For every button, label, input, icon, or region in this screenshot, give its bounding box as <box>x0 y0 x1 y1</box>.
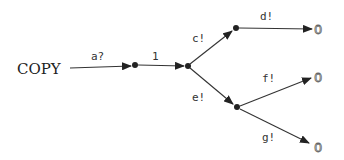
edge-label-e: e! <box>192 91 205 104</box>
state-node-4 <box>234 104 240 110</box>
process-tree-diagram: COPY a? 1 c! d! 0 e! f! 0 g! 0 <box>0 0 344 160</box>
terminal-0-bottom: 0 <box>314 140 322 155</box>
state-node-3 <box>233 25 239 31</box>
edge-a <box>70 66 131 68</box>
edge-1 <box>138 65 184 66</box>
state-node-1 <box>132 62 138 68</box>
edge-label-f: f! <box>262 72 275 85</box>
terminal-0-middle: 0 <box>314 70 322 85</box>
edge-label-a: a? <box>91 50 104 63</box>
edge-label-c: c! <box>192 32 205 45</box>
edge-label-d: d! <box>260 10 273 23</box>
process-name: COPY <box>17 60 62 78</box>
edge-f <box>240 78 311 106</box>
terminal-0-top: 0 <box>314 22 322 37</box>
edge-label-1: 1 <box>152 50 159 63</box>
edge-d <box>239 28 312 29</box>
edge-label-g: g! <box>262 131 275 144</box>
